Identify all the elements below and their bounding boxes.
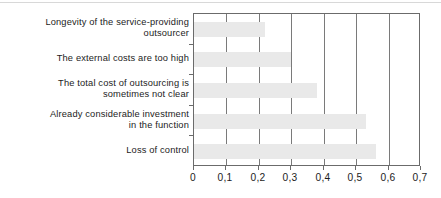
figure: Longevity of the service-providing outso…	[0, 0, 441, 198]
horizontal-bar-chart: Longevity of the service-providing outso…	[0, 0, 441, 198]
gridline	[324, 14, 325, 165]
bar	[194, 114, 366, 129]
category-tick	[189, 105, 193, 106]
bar	[194, 83, 317, 98]
category-label: The total cost of outsourcing is sometim…	[4, 78, 189, 101]
category-label: Loss of control	[4, 145, 189, 156]
value-axis-tick	[225, 166, 226, 170]
gridline	[356, 14, 357, 165]
gridline	[389, 14, 390, 165]
bar	[194, 52, 291, 67]
value-axis-tick	[420, 166, 421, 170]
value-axis-tick-label: 0,7	[400, 172, 440, 184]
value-axis-tick	[323, 166, 324, 170]
category-tick	[189, 135, 193, 136]
bar	[194, 22, 265, 37]
category-tick	[189, 74, 193, 75]
value-axis-tick	[258, 166, 259, 170]
value-axis-tick	[290, 166, 291, 170]
bar	[194, 144, 376, 159]
category-label: Already considerable investment in the f…	[4, 109, 189, 132]
value-axis-tick	[193, 166, 194, 170]
value-axis-tick	[355, 166, 356, 170]
category-tick	[189, 44, 193, 45]
value-axis-tick	[388, 166, 389, 170]
category-label: Longevity of the service-providing outso…	[4, 17, 189, 40]
plot-area	[193, 13, 420, 166]
category-axis-labels: Longevity of the service-providing outso…	[4, 13, 189, 166]
category-label: The external costs are too high	[4, 53, 189, 64]
